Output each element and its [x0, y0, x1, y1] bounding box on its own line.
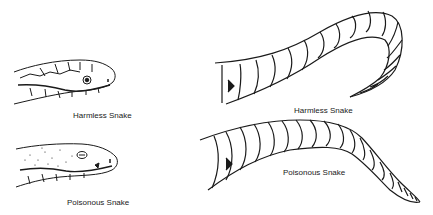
poisonous-snake-tail-label: Poisonous Snake — [283, 168, 345, 177]
poisonous-snake-tail-figure — [0, 0, 433, 215]
poisonous-snake-tail-icon — [0, 0, 433, 215]
